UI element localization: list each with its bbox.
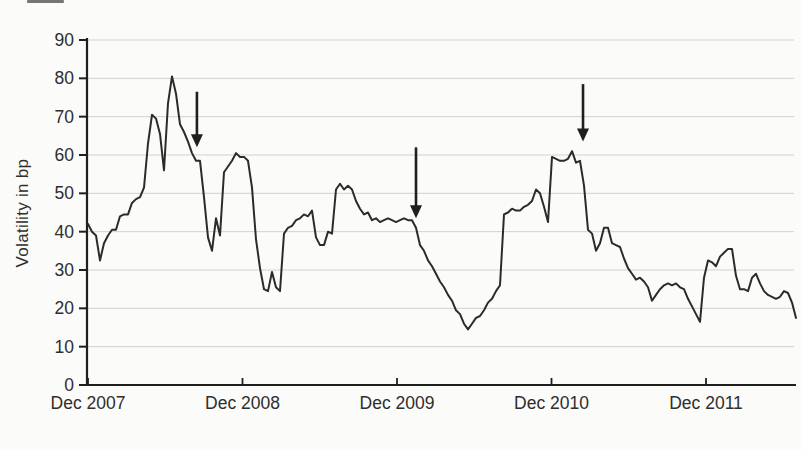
y-tick-label: 90 [55,30,75,50]
event-arrow-3-icon [577,84,589,141]
y-tick-label: 80 [55,68,75,88]
y-tick-label: 60 [55,145,75,165]
y-tick-label: 0 [64,375,74,395]
volatility-line-chart: 0102030405060708090Dec 2007Dec 2008Dec 2… [0,0,802,450]
y-tick-label: 20 [55,298,75,318]
event-arrow-1-icon [191,92,203,148]
x-tick-label: Dec 2008 [205,393,280,413]
y-tick-label: 30 [55,260,75,280]
y-tick-label: 10 [55,337,75,357]
volatility-series-line [88,76,796,329]
x-tick-label: Dec 2011 [669,393,743,413]
event-arrow-2-icon [410,147,422,218]
x-tick-label: Dec 2009 [360,393,435,413]
y-tick-label: 40 [55,222,75,242]
page: { "figure": { "background_color": "#fbfb… [0,0,802,450]
x-tick-label: Dec 2007 [51,393,126,413]
y-tick-label: 50 [55,183,75,203]
y-tick-label: 70 [55,107,75,127]
x-tick-label: Dec 2010 [514,393,589,413]
volatility-chart-figure: Volatility in bp 0102030405060708090Dec … [0,0,802,450]
